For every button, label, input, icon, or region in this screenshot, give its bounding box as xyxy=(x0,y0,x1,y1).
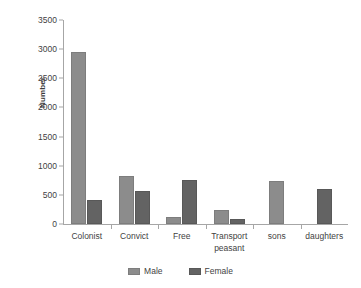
male-swatch-icon xyxy=(128,268,140,275)
legend-label: Female xyxy=(205,266,233,276)
legend-label: Male xyxy=(144,266,162,276)
y-axis-tick-mark xyxy=(59,224,63,225)
y-axis-tick-mark xyxy=(59,20,63,21)
x-axis-labels: ColonistConvictFreeTransport peasantsons… xyxy=(63,231,348,265)
bar-female-free xyxy=(182,180,197,224)
x-axis-label-colonist: Colonist xyxy=(63,231,111,243)
x-axis-label-daughters: daughters xyxy=(301,231,349,243)
y-axis-line xyxy=(63,20,64,224)
category-tick xyxy=(253,224,254,229)
bar-female-convict xyxy=(135,191,150,224)
x-axis-label-transport-peasant: Transport peasant xyxy=(206,231,254,254)
bar-male-convict xyxy=(119,176,134,224)
female-swatch-icon xyxy=(189,268,201,275)
x-axis-label-sons: sons xyxy=(253,231,301,243)
bar-female-daughters xyxy=(317,189,332,224)
category-tick xyxy=(111,224,112,229)
bar-male-free xyxy=(166,217,181,224)
category-tick xyxy=(301,224,302,229)
bar-female-colonist xyxy=(87,200,102,224)
bar-female-transport-peasant xyxy=(230,219,245,224)
legend-item-female[interactable]: Female xyxy=(189,266,233,276)
y-axis-tick-mark xyxy=(59,194,63,195)
bar-male-sons xyxy=(269,181,284,224)
y-axis-tick-mark xyxy=(59,78,63,79)
category-tick xyxy=(158,224,159,229)
y-axis-tick-mark xyxy=(59,136,63,137)
legend-item-male[interactable]: Male xyxy=(128,266,162,276)
bar-chart: Number 0500100015002000250030003500 Colo… xyxy=(0,0,361,288)
chart-legend: MaleFemale xyxy=(0,266,361,276)
y-axis-title: Number xyxy=(38,53,47,133)
y-axis-tick-mark xyxy=(59,49,63,50)
category-tick xyxy=(206,224,207,229)
y-axis-tick-mark xyxy=(59,107,63,108)
bar-male-transport-peasant xyxy=(214,210,229,224)
x-axis-label-convict: Convict xyxy=(111,231,159,243)
plot-area: 0500100015002000250030003500 xyxy=(63,20,348,224)
bar-male-colonist xyxy=(71,52,86,224)
y-axis-tick-mark xyxy=(59,165,63,166)
x-axis-label-free: Free xyxy=(158,231,206,243)
